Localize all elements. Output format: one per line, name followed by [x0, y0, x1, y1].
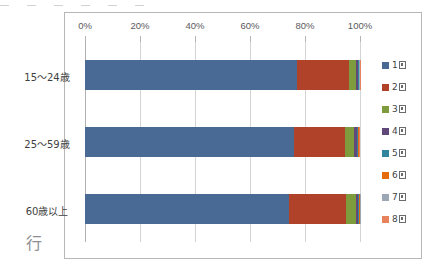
- x-axis-tick-label: 60%: [240, 20, 259, 31]
- legend-color-swatch: [382, 150, 389, 157]
- legend-item-label: 6: [392, 171, 406, 180]
- legend-item[interactable]: 2: [382, 76, 422, 98]
- cutoff-toolbar-strip: [0, 0, 437, 11]
- legend-item-label: 1: [392, 61, 406, 70]
- legend-item-label: 4: [392, 127, 406, 136]
- x-axis-tick-label: 100%: [348, 20, 372, 31]
- legend-color-swatch: [382, 84, 389, 91]
- legend-item[interactable]: 6: [382, 164, 422, 186]
- bar-segment[interactable]: [359, 127, 360, 157]
- missing-glyph-box-icon: [399, 127, 406, 135]
- legend-color-swatch: [382, 172, 389, 179]
- legend-item-label: 3: [392, 105, 406, 114]
- legend-item-label: 8: [392, 215, 406, 224]
- legend-color-swatch: [382, 128, 389, 135]
- legend-item[interactable]: 5: [382, 142, 422, 164]
- bar-segment[interactable]: [297, 60, 349, 90]
- x-axis-tick-label: 20%: [130, 20, 149, 31]
- bar-segment[interactable]: [85, 127, 294, 157]
- bar-segment[interactable]: [85, 60, 297, 90]
- gridline: [360, 42, 361, 242]
- y-axis-category-label: 15〜24歳: [12, 69, 82, 84]
- y-axis-category-label: 25〜59歳: [12, 136, 82, 151]
- bar-segment[interactable]: [346, 194, 355, 224]
- missing-glyph-box-icon: [399, 171, 406, 179]
- y-axis-category-label: 60歳以上: [12, 203, 82, 218]
- missing-glyph-box-icon: [399, 215, 406, 223]
- chart-legend[interactable]: 12345678: [382, 54, 422, 230]
- toolbar-fragment: [108, 5, 117, 6]
- toolbar-fragment: [81, 5, 90, 6]
- stacked-bar[interactable]: [85, 60, 360, 90]
- row-header-glyph: 行: [26, 236, 42, 252]
- legend-item[interactable]: 1: [382, 54, 422, 76]
- x-axis-tick-label: 0%: [78, 20, 92, 31]
- bar-segment[interactable]: [294, 127, 345, 157]
- legend-item[interactable]: 3: [382, 98, 422, 120]
- plot-area: [85, 42, 360, 242]
- bar-segment[interactable]: [289, 194, 347, 224]
- toolbar-fragment: [54, 5, 63, 6]
- missing-glyph-box-icon: [399, 193, 406, 201]
- bar-segment[interactable]: [85, 194, 289, 224]
- x-axis-tick-label: 40%: [185, 20, 204, 31]
- missing-glyph-box-icon: [399, 105, 406, 113]
- missing-glyph-box-icon: [399, 149, 406, 157]
- bar-segment[interactable]: [345, 127, 354, 157]
- legend-item[interactable]: 8: [382, 208, 422, 230]
- missing-glyph-box-icon: [399, 61, 406, 69]
- toolbar-fragment: [135, 5, 144, 6]
- stacked-bar[interactable]: [85, 127, 360, 157]
- legend-item[interactable]: 7: [382, 186, 422, 208]
- bar-segment[interactable]: [349, 60, 356, 90]
- y-axis-category-labels: 15〜24歳25〜59歳60歳以上: [12, 42, 82, 242]
- legend-color-swatch: [382, 106, 389, 113]
- missing-glyph-box-icon: [399, 83, 406, 91]
- legend-color-swatch: [382, 216, 389, 223]
- toolbar-fragment: [0, 5, 9, 6]
- legend-color-swatch: [382, 194, 389, 201]
- legend-item-label: 7: [392, 193, 406, 202]
- x-axis-tick-label: 80%: [295, 20, 314, 31]
- legend-item[interactable]: 4: [382, 120, 422, 142]
- toolbar-fragment: [27, 5, 36, 6]
- stacked-bar[interactable]: [85, 194, 360, 224]
- legend-color-swatch: [382, 62, 389, 69]
- legend-item-label: 5: [392, 149, 406, 158]
- x-axis-tick-labels: 0%20%40%60%80%100%: [0, 20, 437, 36]
- legend-item-label: 2: [392, 83, 406, 92]
